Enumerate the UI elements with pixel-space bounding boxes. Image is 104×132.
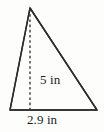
triangle-left-side — [10, 8, 30, 110]
slant-side-length-label: 5 in — [40, 73, 60, 86]
triangle-figure: 5 in 2.9 in — [0, 0, 104, 132]
triangle-outline — [10, 8, 97, 110]
triangle-right-side — [30, 8, 97, 110]
base-length-label: 2.9 in — [27, 113, 57, 126]
